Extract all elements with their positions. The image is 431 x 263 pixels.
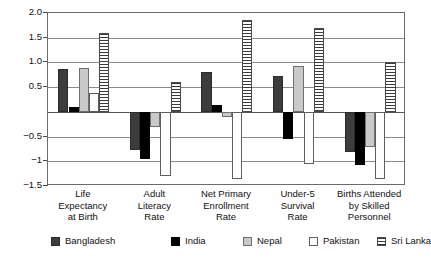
bar-pakistan <box>89 93 99 112</box>
y-axis-tick-label: 1.5 <box>6 32 42 42</box>
legend-swatch-pakistan <box>309 237 318 246</box>
bar-group <box>334 13 406 184</box>
x-axis-label-line: Births Attended <box>327 188 411 200</box>
bar-srilanka <box>171 82 181 112</box>
bar-srilanka <box>242 20 252 111</box>
legend-item-bangladesh[interactable]: Bangladesh <box>51 233 115 249</box>
legend-swatch-bangladesh <box>51 237 60 246</box>
bar-india <box>283 112 293 139</box>
y-axis-tick-label: 2.0 <box>6 7 42 17</box>
bar-pakistan <box>160 112 170 176</box>
bar-bangladesh <box>273 76 283 112</box>
legend-swatch-nepal <box>243 237 252 246</box>
y-axis-tick-label: 0.5 <box>6 81 42 91</box>
bar-group <box>191 13 263 184</box>
bar-srilanka <box>99 33 109 112</box>
bar-nepal <box>365 112 375 148</box>
bar-bangladesh <box>58 69 68 112</box>
y-axis-tick-label: −1.5 <box>6 180 42 190</box>
legend-label-srilanka: Sri Lanka <box>391 236 431 246</box>
y-axis-tick-mark <box>43 185 48 186</box>
legend-label-pakistan: Pakistan <box>323 236 359 246</box>
bar-group <box>48 13 120 184</box>
bar-srilanka <box>314 28 324 112</box>
legend-item-srilanka[interactable]: Sri Lanka <box>377 233 431 249</box>
bar-india <box>69 107 79 112</box>
bar-nepal <box>293 66 303 112</box>
bar-india <box>355 112 365 165</box>
bar-nepal <box>222 112 232 117</box>
legend-label-india: India <box>185 236 206 246</box>
x-axis-category-labels: LifeExpectancyat BirthAdultLiteracyRateN… <box>47 188 405 228</box>
bar-nepal <box>150 112 160 127</box>
legend-label-nepal: Nepal <box>257 236 282 246</box>
bar-pakistan <box>375 112 385 179</box>
bar-bangladesh <box>345 112 355 153</box>
bar-pakistan <box>304 112 314 164</box>
bar-group <box>263 13 335 184</box>
legend-swatch-india <box>171 237 180 246</box>
bar-bangladesh <box>201 72 211 112</box>
legend-item-pakistan[interactable]: Pakistan <box>309 233 359 249</box>
x-axis-label-line: by Skilled <box>327 200 411 212</box>
bar-srilanka <box>385 62 395 111</box>
x-axis-label-line: Personnel <box>327 211 411 223</box>
bar-nepal <box>79 68 89 112</box>
x-axis-label: Births Attendedby SkilledPersonnel <box>327 188 411 223</box>
bar-bangladesh <box>130 112 140 151</box>
plot-area <box>47 12 405 185</box>
y-axis-tick-label: −0.5 <box>6 131 42 141</box>
bar-pakistan <box>232 112 242 179</box>
legend-item-nepal[interactable]: Nepal <box>243 233 282 249</box>
bar-group <box>120 13 192 184</box>
chart-legend: BangladeshIndiaNepalPakistanSri Lanka <box>47 233 405 253</box>
legend-item-india[interactable]: India <box>171 233 206 249</box>
y-axis-tick-label: 1.0 <box>6 56 42 66</box>
legend-label-bangladesh: Bangladesh <box>65 236 115 246</box>
bar-india <box>212 105 222 112</box>
legend-swatch-srilanka <box>377 237 386 246</box>
bar-india <box>140 112 150 159</box>
y-axis-tick-label: −1 <box>6 155 42 165</box>
